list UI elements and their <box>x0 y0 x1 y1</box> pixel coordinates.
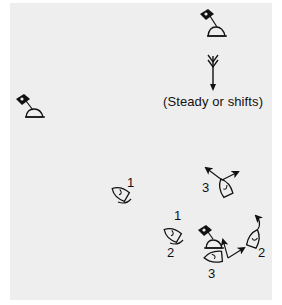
course-arrow-icon <box>228 248 244 258</box>
flag-buoy-icon <box>200 9 227 36</box>
boat-label: 3 <box>208 266 215 281</box>
boat-label: 2 <box>258 245 265 260</box>
boat-icon <box>204 251 223 263</box>
flag-buoy-icon <box>16 94 45 117</box>
flag-buoy-icon <box>198 225 224 248</box>
boat-label: 1 <box>174 208 181 223</box>
wind-arrow-icon <box>208 55 218 91</box>
boat-label: 1 <box>127 175 134 190</box>
diagram-canvas <box>0 0 282 305</box>
course-arrow-icon <box>223 240 228 258</box>
boat-icon <box>216 177 233 198</box>
course-arrow-icon <box>222 172 238 180</box>
wind-caption: (Steady or shifts) <box>163 94 263 109</box>
boat-icon <box>161 225 181 243</box>
boat-label: 3 <box>202 180 209 195</box>
boat-label: 2 <box>167 245 174 260</box>
course-arrow-icon <box>206 168 222 180</box>
turn-arrow-icon <box>256 216 260 229</box>
